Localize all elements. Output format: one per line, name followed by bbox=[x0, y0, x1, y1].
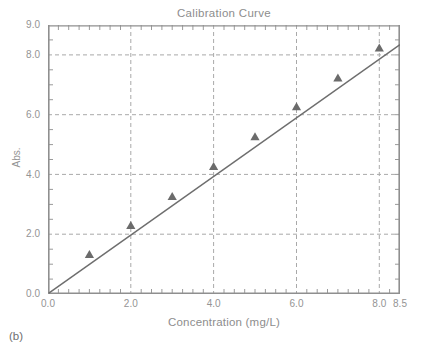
x-tick-label-2: 2.0 bbox=[111, 298, 151, 309]
data-point bbox=[85, 250, 94, 258]
chart-title: Calibration Curve bbox=[48, 7, 400, 19]
axis-spines bbox=[48, 25, 400, 294]
data-point bbox=[292, 102, 301, 110]
calibration-fit-line bbox=[49, 45, 400, 294]
plot-svg bbox=[48, 25, 400, 294]
vertical-gridlines bbox=[131, 25, 379, 294]
y-tick-label-2: 2.0 bbox=[0, 228, 40, 239]
calibration-curve-figure: Calibration Curve bbox=[0, 0, 429, 352]
y-tick-label-8: 8.0 bbox=[0, 49, 40, 60]
x-tick-label-6: 6.0 bbox=[277, 298, 317, 309]
x-tick-label-4: 4.0 bbox=[194, 298, 234, 309]
figure-caption: (b) bbox=[9, 330, 23, 342]
data-point bbox=[333, 73, 342, 81]
y-tick-label-9: 9.0 bbox=[0, 19, 40, 30]
data-point-markers bbox=[85, 44, 384, 259]
data-point bbox=[168, 192, 177, 200]
x-tick-label-8-5: 8.5 bbox=[380, 298, 420, 309]
data-point bbox=[126, 221, 135, 229]
data-point bbox=[375, 44, 384, 52]
plot-area bbox=[48, 25, 400, 294]
data-point bbox=[250, 132, 259, 140]
y-axis-title: Abs. bbox=[11, 134, 22, 182]
y-tick-label-6: 6.0 bbox=[0, 109, 40, 120]
data-point bbox=[209, 162, 218, 170]
x-tick-label-0: 0.0 bbox=[28, 298, 68, 309]
x-axis-title: Concentration (mg/L) bbox=[48, 316, 400, 328]
